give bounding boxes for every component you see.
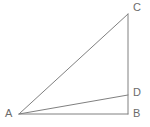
vertex-label-b: B	[133, 108, 140, 119]
vertex-label-d: D	[133, 87, 141, 98]
vertex-label-a: A	[5, 108, 12, 119]
geometry-figure: A B C D	[0, 0, 150, 127]
vertex-label-c: C	[133, 2, 141, 13]
segment-AC	[19, 14, 128, 114]
geometry-canvas	[0, 0, 150, 127]
segment-group	[19, 14, 128, 114]
segment-AD	[19, 95, 128, 114]
